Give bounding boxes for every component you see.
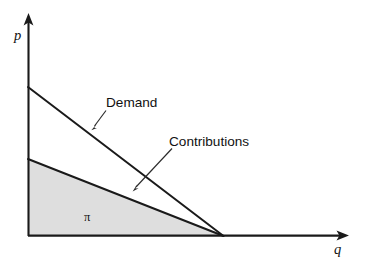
price-axis-label: p [13,27,21,43]
diagram-svg: p q Demand Contributions π [0,0,370,264]
figure-canvas: p q Demand Contributions π [0,0,370,264]
contributions-leader-line [136,149,172,188]
demand-leader-line [95,111,107,127]
quantity-axis-label: q [334,241,341,257]
contributions-label: Contributions [169,134,249,149]
profit-region-label: π [84,210,91,224]
demand-leader-arrowhead-icon [91,124,97,130]
demand-label: Demand [106,95,157,110]
